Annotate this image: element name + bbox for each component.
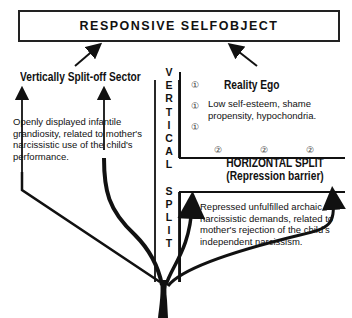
left-sector-heading: Vertically Split-off Sector (20, 70, 141, 84)
marker-2: ② (214, 145, 222, 155)
left-sector-description: Openly displayed infantile grandiosity, … (13, 116, 153, 162)
responsive-selfobject-box: RESPONSIVE SELFOBJECT (18, 10, 340, 42)
marker-2: ② (306, 145, 314, 155)
arrow-right-to-selfobject (234, 48, 257, 66)
arrow-left-to-selfobject (75, 48, 96, 66)
marker-1: ① (191, 122, 199, 132)
reality-ego-heading: Reality Ego (224, 78, 280, 92)
marker-1: ① (191, 80, 199, 90)
repressed-description: Repressed unfulfilled archaic narcissist… (200, 201, 350, 247)
reality-ego-description: Low self-esteem, shame propensity, hypoc… (208, 98, 348, 121)
vertical-split-label: V E R T I C A L S P L I T (163, 66, 175, 251)
horizontal-split-label: HORIZONTAL SPLIT (Repression barrier) (216, 157, 335, 183)
title-label: RESPONSIVE SELFOBJECT (80, 19, 279, 33)
marker-1: ① (191, 101, 199, 111)
tree-trunk (158, 280, 168, 318)
marker-2: ② (260, 145, 268, 155)
